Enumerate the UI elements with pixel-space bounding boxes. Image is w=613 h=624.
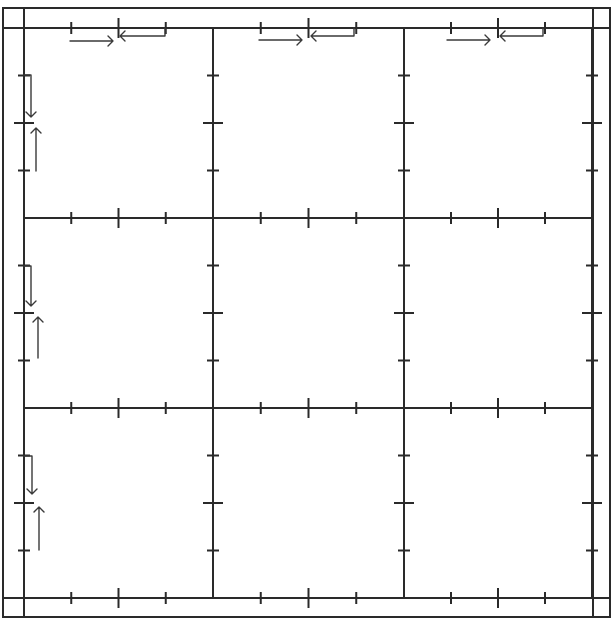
grid-diagram [0, 0, 613, 624]
grid-cell-r2c1 [24, 218, 213, 408]
grid-cell-r3c1 [24, 408, 213, 598]
grid-cell-r3c3 [404, 408, 592, 598]
grid-diagram-svg [0, 0, 613, 624]
grid-cells [24, 28, 592, 598]
grid-cell-r1c2 [213, 28, 404, 218]
grid-cell-r1c1 [24, 28, 213, 218]
grid-cell-r1c3 [404, 28, 592, 218]
grid-cell-r2c3 [404, 218, 592, 408]
grid-cell-r3c2 [213, 408, 404, 598]
grid-cell-r2c2 [213, 218, 404, 408]
